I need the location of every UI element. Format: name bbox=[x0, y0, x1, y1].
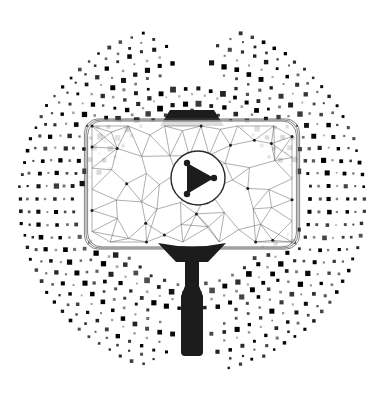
halo-dot bbox=[60, 261, 62, 263]
halo-dot bbox=[248, 64, 250, 66]
halo-dot bbox=[362, 185, 365, 188]
halo-dot bbox=[170, 332, 175, 337]
halo-dot bbox=[32, 236, 35, 239]
halo-dot bbox=[284, 52, 287, 55]
halo-dot bbox=[239, 294, 244, 299]
halo-dot bbox=[26, 198, 29, 201]
halo-dot bbox=[243, 266, 246, 269]
halo-dot bbox=[270, 86, 273, 89]
halo-dot bbox=[74, 270, 79, 275]
halo-dot bbox=[253, 54, 256, 57]
halo-dot bbox=[331, 283, 334, 286]
halo-dot bbox=[35, 197, 38, 200]
halo-dot bbox=[304, 159, 308, 163]
halo-dot bbox=[306, 82, 308, 84]
halo-dot bbox=[19, 209, 23, 213]
halo-dot bbox=[94, 64, 97, 67]
halo-dot bbox=[315, 223, 318, 226]
halo-dot bbox=[142, 32, 145, 35]
halo-dot bbox=[246, 93, 249, 96]
halo-dot bbox=[40, 279, 44, 283]
halo-dot bbox=[72, 147, 75, 150]
halo-dot bbox=[77, 159, 81, 163]
halo-dot bbox=[152, 349, 155, 352]
halo-dot bbox=[46, 185, 48, 187]
halo-dot bbox=[316, 123, 318, 125]
halo-dot bbox=[210, 298, 213, 301]
halo-dot bbox=[69, 103, 72, 106]
halo-dot bbox=[273, 47, 277, 51]
halo-dot bbox=[287, 115, 289, 117]
halo-dot bbox=[235, 327, 240, 332]
halo-dot bbox=[90, 292, 94, 296]
halo-dot bbox=[260, 69, 262, 71]
halo-dot bbox=[234, 67, 239, 72]
halo-dot bbox=[67, 134, 71, 138]
halo-dot bbox=[216, 98, 218, 100]
halo-dot bbox=[20, 222, 23, 225]
halo-dot bbox=[159, 74, 162, 77]
halo-dot bbox=[282, 312, 284, 314]
halo-dot bbox=[288, 64, 290, 66]
halo-dot bbox=[78, 328, 81, 331]
halo-dot bbox=[209, 332, 213, 336]
halo-dot bbox=[360, 222, 363, 225]
halo-dot bbox=[91, 93, 93, 95]
halo-dot bbox=[35, 126, 38, 129]
halo-dot bbox=[48, 135, 52, 139]
halo-dot bbox=[144, 277, 150, 283]
halo-dot bbox=[28, 172, 31, 175]
halo-dot bbox=[45, 291, 48, 294]
halo-dot bbox=[305, 271, 310, 276]
halo-dot bbox=[266, 266, 269, 269]
halo-dot bbox=[128, 47, 131, 50]
mesh-node bbox=[253, 139, 256, 142]
halo-dot bbox=[203, 306, 206, 309]
halo-dot bbox=[248, 323, 251, 326]
halo-dot bbox=[100, 84, 102, 86]
halo-dot bbox=[101, 300, 106, 305]
halo-dot bbox=[317, 172, 319, 174]
halo-dot bbox=[269, 309, 274, 314]
halo-dot bbox=[105, 66, 109, 70]
halo-dot bbox=[85, 83, 89, 87]
halo-dot bbox=[316, 305, 318, 307]
halo-dot bbox=[136, 102, 140, 106]
halo-dot bbox=[107, 46, 111, 50]
halo-dot bbox=[220, 91, 226, 97]
mesh-node bbox=[145, 241, 148, 244]
halo-dot bbox=[320, 282, 323, 285]
halo-dot bbox=[251, 36, 254, 39]
play-vertex-node-0 bbox=[184, 160, 190, 166]
halo-dot bbox=[49, 259, 52, 262]
halo-dot bbox=[68, 159, 71, 162]
halo-dot bbox=[38, 134, 41, 137]
halo-dot bbox=[165, 96, 167, 98]
halo-dot bbox=[318, 146, 322, 150]
halo-dot bbox=[66, 92, 68, 94]
halo-dot bbox=[312, 292, 316, 296]
halo-dot bbox=[146, 308, 149, 311]
halo-dot bbox=[146, 60, 149, 63]
halo-dot bbox=[336, 104, 339, 107]
halo-dot bbox=[323, 261, 325, 263]
halo-dot bbox=[261, 281, 265, 285]
halo-dot bbox=[63, 198, 65, 200]
halo-dot bbox=[342, 260, 344, 262]
halo-dot bbox=[121, 316, 125, 320]
mesh-node bbox=[195, 212, 198, 215]
halo-dot bbox=[356, 246, 359, 249]
mesh-node bbox=[229, 144, 232, 147]
halo-dot bbox=[323, 102, 325, 104]
halo-dot bbox=[116, 344, 119, 347]
halo-dot bbox=[235, 290, 238, 293]
halo-dot bbox=[242, 41, 244, 43]
halo-dot bbox=[354, 198, 357, 201]
halo-dot bbox=[317, 273, 319, 275]
halo-dot bbox=[270, 272, 275, 277]
halo-dot bbox=[313, 236, 316, 239]
halo-dot bbox=[146, 337, 148, 339]
halo-dot bbox=[39, 235, 44, 240]
halo-dot bbox=[259, 77, 264, 82]
play-button[interactable] bbox=[171, 151, 225, 205]
